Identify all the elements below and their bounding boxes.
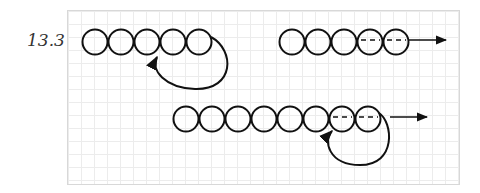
diagram-cycle-and-path: [174, 107, 428, 166]
linked-list-diagrams: [0, 0, 480, 193]
diagram-path-to-infinity: [280, 30, 447, 55]
diagram-cycle-at-end: [83, 30, 228, 90]
